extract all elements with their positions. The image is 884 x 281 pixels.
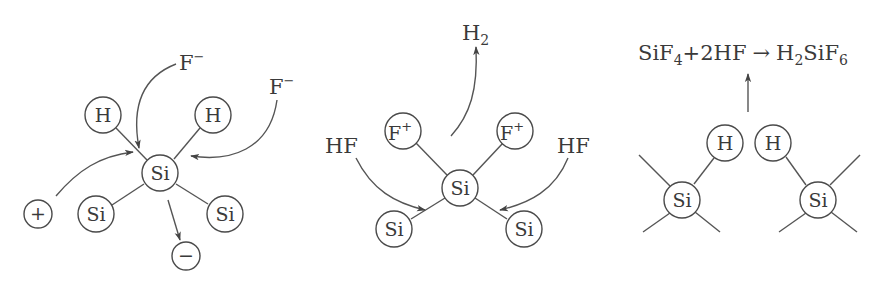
arrow-f-top-to-si	[137, 64, 176, 148]
svg-text:Si: Si	[514, 218, 533, 240]
svg-text:−: −	[178, 244, 194, 266]
bond-stub	[779, 213, 806, 232]
arrow-hf-left-to-si	[356, 158, 425, 210]
label-hf-left: HF	[325, 134, 358, 158]
label-h2-product: H2	[462, 21, 489, 48]
bond-stub	[830, 155, 860, 185]
svg-text:H: H	[717, 132, 734, 154]
bond-si-si-left	[112, 184, 144, 205]
reaction-equation: SiF4+2HF→H2SiF6	[638, 41, 848, 68]
bond-si-f-right	[473, 143, 503, 175]
svg-text:Si: Si	[384, 218, 403, 240]
arrow-plus-to-si	[56, 152, 133, 196]
bond-stub	[643, 213, 670, 232]
svg-text:H: H	[95, 104, 112, 126]
bond-stub	[695, 212, 720, 232]
svg-text:+: +	[30, 202, 46, 224]
svg-text:Si: Si	[150, 162, 169, 184]
atom-si-left: Si	[78, 196, 114, 232]
atom-h-left: H	[707, 125, 743, 161]
arrow-si-to-minus	[168, 200, 180, 240]
label-hf-right: HF	[557, 134, 590, 158]
bond-si-h-left	[116, 128, 147, 160]
bond-stub	[831, 212, 857, 232]
bond-si-f-left	[416, 143, 447, 175]
atom-h-right: H	[755, 125, 791, 161]
panel-2-hf-attack: Si F+ F+ Si Si H2 HF HF	[325, 21, 590, 247]
atom-si-right: Si	[800, 182, 836, 218]
bond-si-si-right	[475, 198, 507, 219]
svg-text:Si: Si	[450, 177, 469, 199]
atom-si-center: Si	[442, 170, 478, 206]
bond-stub	[639, 155, 670, 186]
atom-h-right: H	[195, 97, 231, 133]
svg-text:Si: Si	[86, 203, 105, 225]
hole-plus-charge: +	[24, 200, 52, 228]
silicon-etching-mechanism-diagram: Si H H Si Si + − F− F−	[0, 0, 884, 281]
arrow-hf-right-to-si	[500, 158, 568, 210]
atom-f-plus-left: F+	[385, 113, 421, 149]
svg-text:Si: Si	[808, 189, 827, 211]
atom-si-center: Si	[142, 155, 178, 191]
bond-si-h-left	[694, 158, 714, 184]
atom-f-plus-right: F+	[497, 113, 533, 149]
svg-text:Si: Si	[215, 203, 234, 225]
panel-3-silicon-fluoride-reaction: Si H H Si SiF4+2HF→H2SiF6	[638, 41, 860, 232]
svg-text:H: H	[765, 132, 782, 154]
bond-si-si-left	[411, 198, 445, 219]
svg-text:H: H	[205, 104, 222, 126]
atom-si-right: Si	[207, 196, 243, 232]
atom-si-left: Si	[664, 182, 700, 218]
label-fluoride-right: F−	[269, 73, 294, 99]
arrow-h2-release	[451, 47, 476, 136]
panel-1-fluoride-attack: Si H H Si Si + − F− F−	[24, 49, 294, 270]
label-fluoride-top: F−	[179, 49, 204, 75]
svg-text:Si: Si	[672, 189, 691, 211]
atom-h-left: H	[85, 97, 121, 133]
electron-minus-charge: −	[172, 242, 200, 270]
bond-si-h-right	[174, 128, 200, 159]
bond-si-h-right	[786, 157, 806, 185]
bond-si-si-right	[176, 184, 208, 204]
atom-si-right: Si	[506, 211, 542, 247]
atom-si-left: Si	[376, 211, 412, 247]
